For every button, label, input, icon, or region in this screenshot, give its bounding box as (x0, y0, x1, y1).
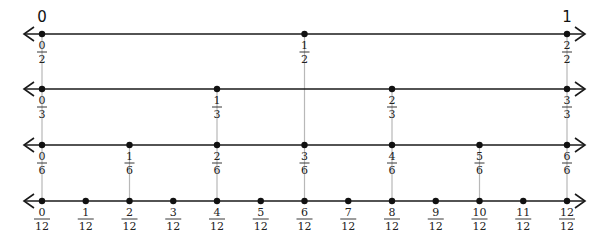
numerator: 0 (39, 94, 46, 107)
numerator: 5 (257, 206, 264, 219)
denominator: 2 (301, 53, 308, 66)
point-dot (564, 31, 570, 37)
denominator: 6 (39, 164, 46, 177)
point-dot (564, 86, 570, 92)
numerator: 2 (564, 39, 571, 52)
point-dot (476, 198, 482, 204)
numerator: 4 (214, 206, 221, 219)
denominator: 3 (214, 108, 221, 121)
numerator: 1 (214, 94, 221, 107)
numerator: 1 (126, 150, 133, 163)
point-dot (39, 86, 45, 92)
point-1-12: 112 (78, 198, 94, 233)
one-label: 1 (562, 8, 572, 26)
point-2-2: 22 (562, 31, 572, 66)
numerator: 10 (473, 206, 487, 219)
numerator: 1 (82, 206, 89, 219)
point-10-12: 1012 (472, 198, 488, 233)
point-9-12: 912 (428, 198, 444, 233)
point-dot (214, 198, 220, 204)
point-dot (126, 142, 132, 148)
denominator: 12 (35, 220, 49, 233)
numerator: 4 (389, 150, 396, 163)
point-dot (345, 198, 351, 204)
point-8-12: 812 (384, 198, 400, 233)
number-line-halves: 021222 (24, 27, 585, 66)
fraction-number-lines-diagram: 0212220313233306162636465666012112212312… (0, 0, 607, 238)
denominator: 12 (298, 220, 312, 233)
point-0-6: 06 (37, 142, 47, 177)
point-dot (39, 142, 45, 148)
denominator: 3 (39, 108, 46, 121)
denominator: 3 (389, 108, 396, 121)
point-0-12: 012 (34, 198, 50, 233)
point-dot (214, 86, 220, 92)
numerator: 9 (432, 206, 439, 219)
point-dot (520, 198, 526, 204)
point-5-12: 512 (253, 198, 269, 233)
point-dot (389, 198, 395, 204)
point-3-6: 36 (300, 142, 310, 177)
point-6-6: 66 (562, 142, 572, 177)
point-dot (433, 198, 439, 204)
point-6-12: 612 (297, 198, 313, 233)
numerator: 1 (301, 39, 308, 52)
numerator: 3 (301, 150, 308, 163)
numerator: 2 (126, 206, 133, 219)
point-dot (39, 31, 45, 37)
denominator: 12 (254, 220, 268, 233)
denominator: 3 (564, 108, 571, 121)
denominator: 12 (516, 220, 530, 233)
denominator: 12 (341, 220, 355, 233)
denominator: 12 (79, 220, 93, 233)
numerator: 0 (39, 39, 46, 52)
point-dot (126, 198, 132, 204)
zero-label: 0 (37, 8, 47, 26)
numerator: 12 (560, 206, 574, 219)
denominator: 12 (385, 220, 399, 233)
point-dot (476, 142, 482, 148)
point-dot (564, 142, 570, 148)
numerator: 3 (170, 206, 177, 219)
point-dot (301, 198, 307, 204)
denominator: 2 (564, 53, 571, 66)
point-12-12: 1212 (559, 198, 575, 233)
point-dot (170, 198, 176, 204)
point-dot (301, 142, 307, 148)
numerator: 2 (389, 94, 396, 107)
numerator: 6 (301, 206, 308, 219)
point-dot (389, 86, 395, 92)
denominator: 12 (210, 220, 224, 233)
point-4-12: 412 (209, 198, 225, 233)
point-1-3: 13 (212, 86, 222, 121)
denominator: 6 (389, 164, 396, 177)
numerator: 5 (476, 150, 483, 163)
denominator: 6 (126, 164, 133, 177)
number-line-twelfths: 0121122123124125126127128129121012111212… (24, 194, 585, 233)
point-dot (389, 142, 395, 148)
point-dot (39, 198, 45, 204)
numerator: 8 (389, 206, 396, 219)
denominator: 6 (214, 164, 221, 177)
denominator: 2 (39, 53, 46, 66)
denominator: 12 (473, 220, 487, 233)
point-1-2: 12 (300, 31, 310, 66)
numerator: 11 (516, 206, 530, 219)
denominator: 12 (429, 220, 443, 233)
point-0-3: 03 (37, 86, 47, 121)
numerator: 3 (564, 94, 571, 107)
numerator: 6 (564, 150, 571, 163)
point-7-12: 712 (340, 198, 356, 233)
point-dot (214, 142, 220, 148)
denominator: 12 (560, 220, 574, 233)
numerator: 2 (214, 150, 221, 163)
point-2-3: 23 (387, 86, 397, 121)
denominator: 6 (476, 164, 483, 177)
numerator: 0 (39, 150, 46, 163)
point-1-6: 16 (125, 142, 135, 177)
point-3-12: 312 (165, 198, 181, 233)
denominator: 6 (564, 164, 571, 177)
point-0-2: 02 (37, 31, 47, 66)
point-3-3: 33 (562, 86, 572, 121)
point-dot (564, 198, 570, 204)
